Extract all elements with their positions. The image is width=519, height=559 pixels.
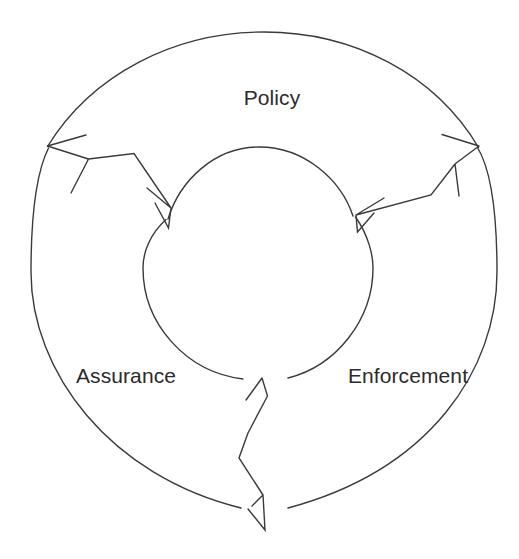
segment-label-policy: Policy <box>244 86 301 109</box>
divider-arrows <box>48 135 480 531</box>
diagram-canvas: Policy Enforcement Assurance <box>0 0 519 559</box>
cycle-diagram: Policy Enforcement Assurance <box>0 0 519 559</box>
segment-label-enforcement: Enforcement <box>348 364 468 387</box>
segment-labels: Policy Enforcement Assurance <box>76 86 468 387</box>
arrow-divider-upper-left <box>48 135 172 228</box>
inner-ring <box>143 147 373 379</box>
arrow-divider-upper-right <box>356 135 479 233</box>
outer-arc-assurance <box>31 148 241 508</box>
arrow-divider-bottom <box>239 378 268 530</box>
segment-label-assurance: Assurance <box>76 364 176 387</box>
inner-arc-assurance <box>143 220 243 380</box>
inner-arc-enforcement <box>288 217 373 378</box>
outer-arc-enforcement <box>288 148 497 509</box>
inner-arc-policy <box>168 147 353 219</box>
